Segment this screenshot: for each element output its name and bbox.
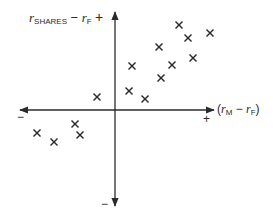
x-label-r2: r bbox=[246, 102, 251, 116]
x-marker bbox=[169, 62, 176, 69]
x-marker bbox=[142, 96, 149, 103]
x-marker bbox=[156, 44, 163, 51]
x-marker bbox=[190, 55, 197, 62]
x-marker bbox=[126, 88, 133, 95]
y-negative-sign: − bbox=[101, 197, 108, 211]
x-negative-sign: − bbox=[17, 110, 24, 124]
x-marker bbox=[129, 63, 136, 70]
x-marker bbox=[185, 35, 192, 42]
x-positive-sign: + bbox=[203, 112, 210, 126]
x-marker bbox=[77, 132, 84, 139]
x-label-minus: − bbox=[232, 102, 246, 116]
y-axis-label: rSHARES − rF bbox=[29, 10, 92, 26]
x-marker bbox=[158, 75, 165, 82]
x-label-sub-m: M bbox=[226, 108, 233, 117]
x-axis-label: (rM − rF) bbox=[217, 102, 260, 117]
x-label-sub-f: F bbox=[251, 108, 256, 117]
y-label-sub-f: F bbox=[87, 17, 92, 26]
y-positive-sign: + bbox=[95, 9, 103, 25]
data-points bbox=[34, 22, 214, 146]
x-marker bbox=[94, 94, 101, 101]
x-marker bbox=[51, 139, 58, 146]
x-marker bbox=[207, 30, 214, 37]
x-label-r: r bbox=[221, 102, 226, 116]
x-marker bbox=[72, 121, 79, 128]
y-label-minus: − bbox=[67, 10, 82, 25]
x-marker bbox=[34, 130, 41, 137]
x-label-close-paren: ) bbox=[256, 102, 260, 116]
x-marker bbox=[176, 22, 183, 29]
y-label-sub-shares: SHARES bbox=[34, 17, 67, 26]
